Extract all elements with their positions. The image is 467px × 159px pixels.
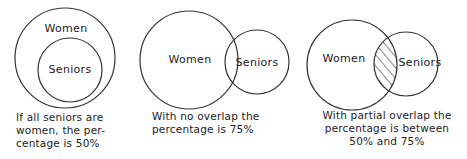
seniors-label: Seniors (49, 63, 92, 76)
caption-no-overlap: With no overlap the percentage is 75% (152, 110, 259, 136)
seniors-label: Seniors (236, 56, 279, 69)
caption-line: With partial overlap the (313, 109, 461, 122)
caption-line: women, the per- (16, 124, 105, 137)
caption-line: centage is 50% (16, 137, 105, 150)
caption-line: percentage is between (313, 122, 461, 135)
caption-partial-overlap: With partial overlap the percentage is b… (313, 109, 461, 148)
seniors-label: Seniors (399, 56, 442, 69)
panel-all-seniors-women: Women Seniors (15, 8, 115, 108)
caption-line: 50% and 75% (313, 135, 461, 148)
panel-partial-overlap: Women Seniors (307, 20, 441, 110)
caption-line: If all seniors are (16, 111, 105, 124)
caption-line: With no overlap the (152, 110, 259, 123)
panel-no-overlap: Women Seniors (140, 11, 289, 109)
women-label: Women (323, 52, 366, 65)
women-label: Women (45, 22, 88, 35)
caption-line: percentage is 75% (152, 123, 259, 136)
caption-all-seniors-women: If all seniors are women, the per- centa… (16, 111, 105, 150)
women-label: Women (169, 53, 212, 66)
